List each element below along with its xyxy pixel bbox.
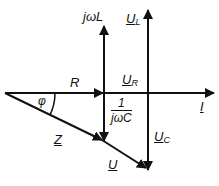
ul-main: U (126, 11, 135, 26)
phi-arc (50, 93, 55, 115)
label-uc: UC (154, 130, 170, 145)
label-i: I (200, 100, 204, 113)
uc-sub: C (163, 135, 170, 145)
label-z: Z (54, 133, 62, 146)
label-r: R (70, 76, 79, 89)
label-ul: UL (126, 12, 140, 27)
frac-numerator: 1 (111, 97, 132, 111)
z-text: Z (54, 132, 62, 147)
i-text: I (200, 99, 204, 114)
label-one-over-jwc: 1 jωC (111, 97, 132, 124)
u-text: U (108, 157, 117, 172)
ur-sub: R (131, 78, 138, 88)
label-u: U (108, 158, 117, 171)
uc-main: U (154, 129, 163, 144)
ul-sub: L (135, 17, 140, 27)
label-phi: φ (38, 95, 46, 107)
label-jwl: jωL (83, 10, 103, 23)
label-ur: UR (122, 73, 138, 88)
ur-main: U (122, 72, 131, 87)
frac-denominator: jωC (111, 111, 132, 124)
